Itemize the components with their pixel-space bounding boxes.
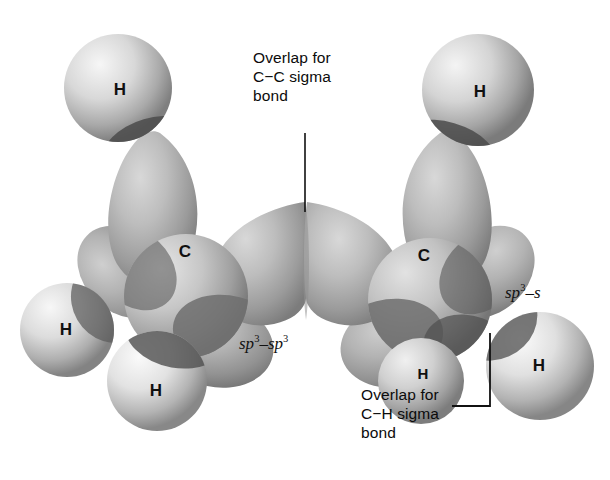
atom-label-hydrogen-bottom-right: H: [418, 365, 429, 382]
sp3-sp3-exp2: 3: [283, 333, 288, 344]
callout-ch-sigma: Overlap for C−H sigma bond: [361, 385, 439, 442]
atom-label-hydrogen-bottom-left: H: [150, 381, 162, 401]
sp3-s-mid: –s: [525, 283, 540, 302]
orbital-label-sp3-s: sp3–s: [505, 282, 541, 303]
atom-label-carbon-right: C: [418, 246, 430, 266]
callout-cc-sigma: Overlap for C−C sigma bond: [253, 48, 331, 105]
sp3-sp3-base: sp: [239, 334, 254, 353]
atom-label-hydrogen-right: H: [533, 356, 545, 376]
sp3-sp3-mid: –sp: [259, 334, 283, 353]
sp3-s-base: sp: [505, 283, 520, 302]
atom-label-hydrogen-left: H: [60, 320, 72, 340]
atom-label-hydrogen-top-left: H: [114, 80, 126, 100]
orbital-label-sp3-sp3: sp3–sp3: [239, 333, 288, 354]
atom-label-hydrogen-top-right: H: [474, 82, 486, 102]
atom-label-carbon-left: C: [179, 242, 191, 262]
